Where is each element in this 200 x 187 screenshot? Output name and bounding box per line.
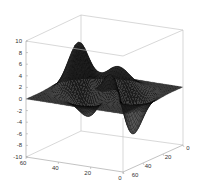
z-tick-label: 4 [19, 73, 23, 79]
z-tick-label: 2 [19, 84, 23, 90]
z-tick-label: 0 [19, 96, 23, 102]
z-tick-label: 10 [15, 38, 22, 44]
z-tick-label: -4 [17, 119, 23, 125]
y-tick-label: 20 [165, 154, 172, 160]
x-tick-label: 20 [84, 170, 91, 176]
x-tick-labels: 6040200 [20, 157, 123, 181]
tick-mark [183, 145, 184, 147]
y-tick-label: 40 [145, 163, 152, 169]
z-tick-label: -6 [17, 131, 23, 137]
surface-plot: 1086420-2-4-6-8-10 6040200 6040200 [0, 0, 200, 187]
x-tick-label: 40 [52, 165, 59, 171]
z-tick-label: -2 [17, 108, 23, 114]
x-axis: 6040200 [20, 157, 123, 181]
y-tick-label: 0 [186, 145, 190, 151]
y-axis: 6040200 [123, 145, 190, 178]
y-tick-label: 60 [132, 172, 139, 178]
peaks-surface [26, 42, 183, 134]
x-tick-label: 60 [20, 160, 27, 166]
z-axis: 1086420-2-4-6-8-10 [13, 38, 28, 160]
z-tick-label: 6 [19, 61, 23, 67]
z-tick-label: -8 [17, 142, 23, 148]
x-tick-label: 0 [118, 175, 122, 181]
y-tick-labels: 6040200 [123, 145, 190, 178]
z-tick-label: 8 [19, 50, 23, 56]
